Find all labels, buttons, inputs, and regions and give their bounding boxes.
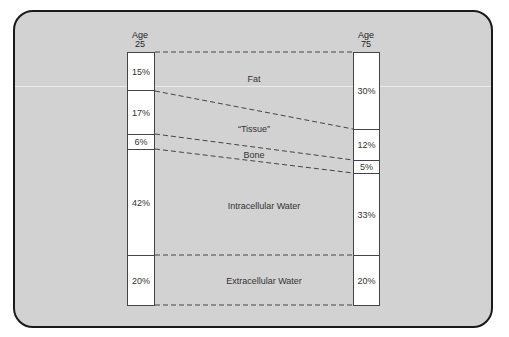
label-extracellular-water: Extracellular Water	[174, 276, 354, 286]
label-tissue: “Tissue”	[164, 124, 344, 134]
label-fat: Fat	[164, 74, 344, 84]
label-bone: Bone	[164, 150, 344, 160]
label-intracellular-water: Intracellular Water	[174, 201, 354, 211]
connector-lines	[0, 0, 509, 337]
